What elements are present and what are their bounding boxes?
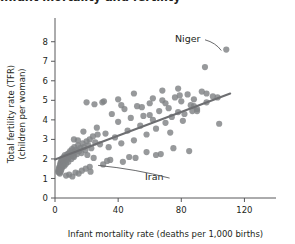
x-tick-label: 120 <box>236 205 252 215</box>
data-point <box>75 137 81 143</box>
data-point <box>203 90 209 96</box>
data-point <box>104 158 110 164</box>
data-point <box>131 137 137 143</box>
data-point <box>132 155 138 161</box>
y-tick-label: 7 <box>43 56 48 66</box>
data-point <box>126 154 132 160</box>
data-point <box>143 149 149 155</box>
data-point <box>147 112 153 118</box>
data-point <box>106 144 112 150</box>
data-point <box>162 100 168 106</box>
x-tick-label: 40 <box>113 205 124 215</box>
data-point <box>170 145 176 151</box>
data-point <box>128 115 134 121</box>
data-point <box>185 91 191 97</box>
data-point <box>191 96 197 102</box>
data-point <box>99 99 105 105</box>
data-point <box>223 46 229 52</box>
scatter-plot: 01234567804080120Infant mortality rate (… <box>0 0 295 244</box>
y-tick-label: 8 <box>43 37 48 47</box>
x-tick-label: 0 <box>52 205 57 215</box>
y-tick-label: 4 <box>43 115 48 125</box>
y-tick-label: 2 <box>43 154 48 164</box>
data-point <box>102 130 108 136</box>
data-point <box>115 119 121 125</box>
data-point <box>94 125 100 131</box>
data-point <box>91 155 97 161</box>
x-axis-title: Infant mortality rate (deaths per 1,000 … <box>68 229 263 239</box>
data-point <box>91 101 97 107</box>
cut-off-page-title: Infant mortality and fertility <box>0 0 295 4</box>
data-point <box>216 121 222 127</box>
chart-figure: Infant mortality and fertility 012345678… <box>0 0 295 244</box>
data-points-group <box>55 46 229 179</box>
data-point <box>84 152 90 158</box>
data-point <box>153 152 159 158</box>
data-point <box>118 102 124 108</box>
data-point <box>71 154 77 160</box>
data-point <box>186 148 192 154</box>
data-point <box>175 86 181 92</box>
annotation-label-niger: Niger <box>175 33 201 44</box>
data-point <box>109 111 115 117</box>
data-point <box>159 87 165 93</box>
data-point <box>95 131 101 137</box>
y-tick-label: 0 <box>43 193 48 203</box>
data-point <box>143 131 149 137</box>
data-point <box>87 164 93 170</box>
data-point <box>83 99 89 105</box>
data-point <box>140 113 146 119</box>
data-point <box>118 140 124 146</box>
data-point <box>150 95 156 101</box>
data-point <box>178 98 184 104</box>
y-tick-label: 6 <box>43 76 48 86</box>
data-point <box>131 90 137 96</box>
y-axis-title-line2: (children per woman) <box>17 68 27 159</box>
y-axis-title-line1: Total fertility rate (TFR) <box>6 65 16 164</box>
x-tick-label: 80 <box>176 205 187 215</box>
data-point <box>177 92 183 98</box>
data-point <box>202 64 208 70</box>
y-tick-label: 1 <box>43 174 48 184</box>
y-tick-label: 3 <box>43 134 48 144</box>
data-point <box>80 128 86 134</box>
data-point <box>139 104 145 110</box>
data-point <box>180 118 186 124</box>
data-point <box>156 108 162 114</box>
trend-line <box>55 93 230 159</box>
annotation-leader-niger <box>205 40 221 51</box>
data-point <box>153 126 159 132</box>
y-tick-label: 5 <box>43 95 48 105</box>
data-point <box>115 96 121 102</box>
data-point <box>120 159 126 165</box>
data-point <box>167 129 173 135</box>
data-point <box>162 120 168 126</box>
